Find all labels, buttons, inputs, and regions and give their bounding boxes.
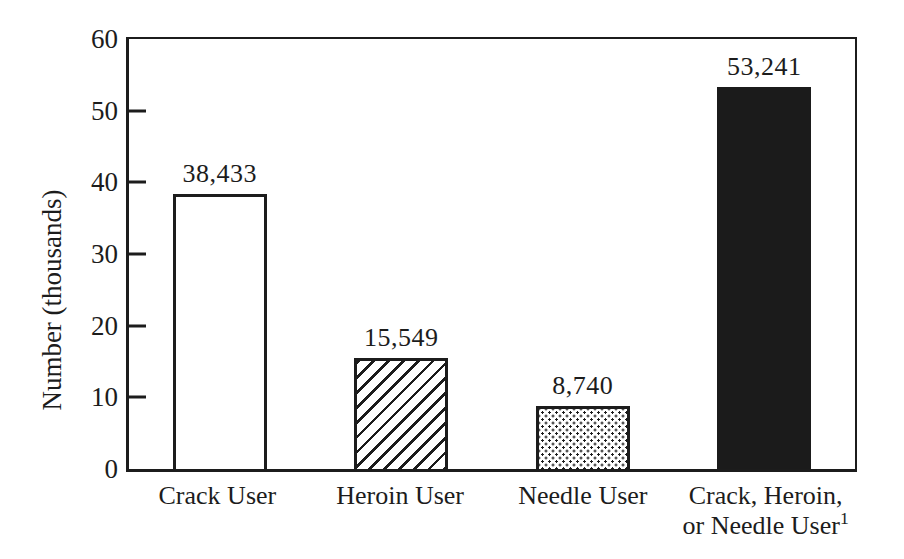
x-axis-labels-row: Crack UserHeroin UserNeedle UserCrack, H… [126, 481, 857, 541]
bar-value-label: 53,241 [727, 54, 802, 80]
plot-area: 38,43315,5498,74053,241 0102030405060 [126, 37, 857, 472]
y-tick [129, 109, 146, 112]
y-tick [129, 181, 146, 184]
y-tick-label: 30 [91, 241, 118, 268]
x-category-label: Crack, Heroin,or Needle User1 [674, 481, 857, 541]
y-tick-label: 40 [91, 169, 118, 196]
bars-row: 38,43315,5498,74053,241 [129, 39, 855, 469]
category-line: Crack, Heroin, [674, 481, 857, 511]
y-tick-label: 0 [105, 456, 119, 483]
y-tick-label: 60 [91, 26, 118, 53]
y-axis-title: Number (thousands) [37, 189, 68, 410]
y-tick [129, 324, 146, 327]
y-tick [129, 253, 146, 256]
bar-plain-white [173, 194, 267, 469]
y-tick-label: 50 [91, 97, 118, 124]
bar-solid-black [717, 87, 811, 469]
category-line: Crack User [126, 481, 309, 511]
bar-value-label: 15,549 [364, 325, 439, 351]
category-line: or Needle User1 [674, 511, 857, 541]
bar-group: 53,241 [674, 39, 856, 469]
bar-value-label: 8,740 [552, 373, 613, 399]
bar-group: 8,740 [492, 39, 674, 469]
x-category-label: Heroin User [309, 481, 492, 541]
bar-chart-figure: Number (thousands) 38,43315,5498,74053,2… [0, 0, 904, 559]
category-line: Needle User [492, 481, 675, 511]
x-category-label: Needle User [492, 481, 675, 541]
category-line: Heroin User [309, 481, 492, 511]
bar-value-label: 38,433 [183, 161, 258, 187]
y-tick-label: 10 [91, 384, 118, 411]
footnote-superscript: 1 [840, 508, 849, 528]
bar-group: 38,433 [129, 39, 311, 469]
bar-group: 15,549 [311, 39, 493, 469]
bar-diagonal-hatch [354, 358, 448, 469]
x-category-label: Crack User [126, 481, 309, 541]
bar-stipple-dots [536, 406, 630, 469]
y-tick-label: 20 [91, 312, 118, 339]
y-tick [129, 396, 146, 399]
